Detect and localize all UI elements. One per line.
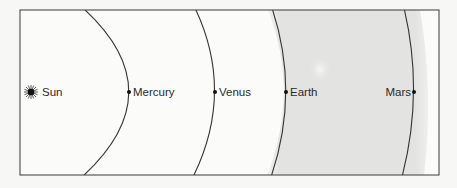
sun-label: Sun [42, 86, 62, 98]
band-highlight [308, 56, 332, 84]
planet-earth: Earth [284, 86, 318, 98]
planet-dot-icon [127, 90, 131, 94]
planet-dot-icon [213, 90, 217, 94]
sun-icon [24, 85, 38, 99]
planet-mercury: Mercury [127, 86, 175, 98]
planet-label-venus: Venus [219, 86, 251, 98]
planet-label-mercury: Mercury [133, 86, 175, 98]
orbit-diagram: Sun Mercury Venus Earth Mars [0, 0, 457, 188]
planet-venus: Venus [213, 86, 251, 98]
planet-dot-icon [412, 90, 416, 94]
planet-label-mars: Mars [385, 86, 411, 98]
planet-dot-icon [284, 90, 288, 94]
planet-label-earth: Earth [290, 86, 318, 98]
